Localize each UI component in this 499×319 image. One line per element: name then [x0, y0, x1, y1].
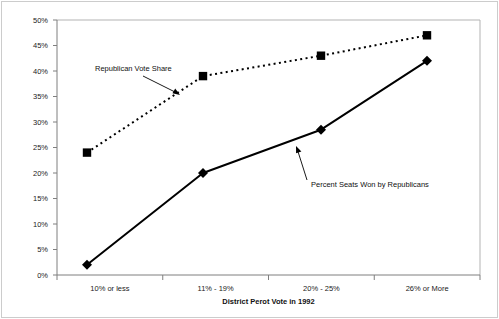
y-tick-label-2: 10% [33, 220, 48, 229]
y-tick-label-1: 5% [37, 245, 48, 254]
x-tick-label-2: 20% - 25% [303, 284, 340, 293]
x-tick-label-1: 11% - 19% [198, 284, 234, 293]
marker-republican-1 [199, 72, 207, 80]
y-tick-label-5: 25% [33, 143, 48, 152]
y-tick-label-4: 20% [33, 169, 48, 178]
y-tick-label-9: 45% [33, 41, 48, 50]
chart-plot-svg: 0% 5% 10% 15% 20% 25% 30% 35% 40% 45% 50… [0, 0, 499, 319]
y-tick-label-6: 30% [33, 118, 48, 127]
x-axis-title: District Perot Vote in 1992 [222, 297, 314, 306]
y-tick-label-8: 40% [33, 67, 48, 76]
x-tick-label-0: 10% or less [90, 284, 129, 293]
marker-republican-0 [83, 148, 91, 156]
y-tick-label-7: 35% [33, 92, 48, 101]
y-tick-label-0: 0% [37, 271, 48, 280]
annotation-republican-vote-share-label: Republican Vote Share [95, 64, 172, 73]
chart-container: 0% 5% 10% 15% 20% 25% 30% 35% 40% 45% 50… [0, 0, 499, 319]
x-tick-label-3: 26% or More [406, 284, 449, 293]
annotation-percent-seats-won-label: Percent Seats Won by Republicans [311, 180, 429, 189]
marker-republican-2 [317, 52, 325, 60]
plot-area-background [57, 20, 480, 275]
y-tick-label-3: 15% [33, 194, 48, 203]
y-tick-label-10: 50% [33, 16, 48, 25]
marker-republican-3 [423, 31, 431, 39]
